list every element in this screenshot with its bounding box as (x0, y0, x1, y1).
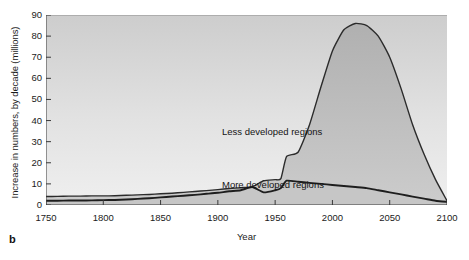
x-tick-label: 2050 (368, 212, 412, 223)
x-tick-label: 1750 (24, 212, 68, 223)
panel-letter: b (9, 233, 16, 245)
y-tick-label: 90 (16, 10, 42, 19)
x-axis-tick-labels: 17501800185019001950200020502100 (0, 212, 469, 228)
y-tick-label: 30 (16, 137, 42, 146)
x-tick-label: 1800 (81, 212, 125, 223)
x-tick-label: 1900 (196, 212, 240, 223)
plot-area: Less developed regions More developed re… (46, 15, 447, 205)
x-tick-label: 1950 (253, 212, 297, 223)
y-tick-label: 70 (16, 52, 42, 61)
y-tick-label: 40 (16, 116, 42, 125)
series-label-less-developed: Less developed regions (222, 126, 323, 137)
y-tick-label: 80 (16, 31, 42, 40)
y-tick-label: 20 (16, 158, 42, 167)
y-tick-label: 10 (16, 179, 42, 188)
y-tick-label: 0 (16, 200, 42, 209)
x-tick-label: 2000 (310, 212, 354, 223)
x-tick-label: 2100 (425, 212, 469, 223)
y-tick-label: 50 (16, 94, 42, 103)
y-tick-label: 60 (16, 73, 42, 82)
figure-panel-b: Increase in numbers, by decade (millions… (0, 0, 469, 260)
series-label-more-developed: More developed regions (222, 179, 324, 190)
x-axis-title: Year (46, 231, 447, 242)
x-tick-label: 1850 (139, 212, 183, 223)
chart-svg: Less developed regions More developed re… (46, 15, 447, 205)
